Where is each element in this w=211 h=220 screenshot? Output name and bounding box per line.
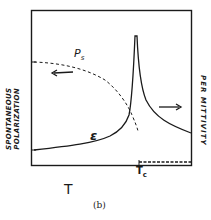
- ylabel-left-line2: POLARIZATION: [13, 88, 21, 150]
- plot-frame: [32, 11, 192, 166]
- figure-caption: (b): [93, 200, 106, 210]
- y-axis-label-left: SPONTANEOUS POLARIZATION: [5, 88, 21, 150]
- ps-label-main: P: [74, 47, 81, 60]
- ferroelectric-figure: SPONTANEOUS POLARIZATION PER MITTIVITY P…: [0, 0, 211, 220]
- epsilon-label: ε: [90, 128, 97, 143]
- tc-label: Tc: [136, 165, 147, 179]
- ps-label-sub: s: [81, 54, 85, 62]
- ylabel-left-line1: SPONTANEOUS: [5, 88, 13, 150]
- plot-area: [0, 0, 211, 220]
- epsilon-curve: [34, 36, 191, 150]
- tc-label-main: T: [136, 165, 143, 176]
- ps-label: Ps: [74, 47, 84, 62]
- x-axis-label: T: [64, 181, 73, 197]
- ps-arrow-left-icon: [54, 72, 73, 73]
- ps-curve: [34, 62, 138, 131]
- tc-label-sub: c: [143, 171, 147, 179]
- y-axis-label-right: PER MITTIVITY: [199, 75, 207, 146]
